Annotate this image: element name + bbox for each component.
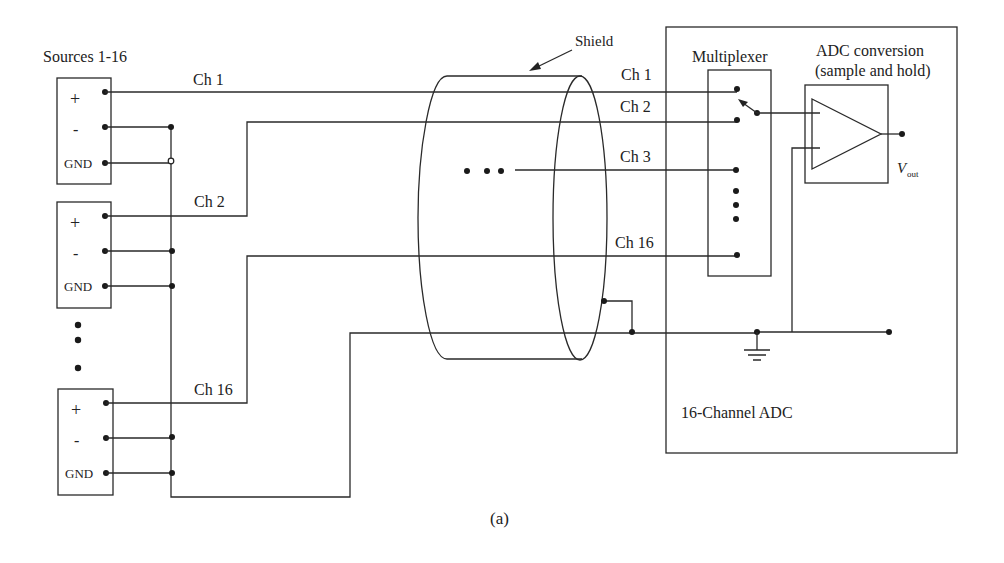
shield-label: Shield (575, 33, 614, 49)
pin-terminals (102, 89, 109, 476)
pin-minus-label: - (73, 245, 78, 262)
multiplexer-box (708, 70, 820, 276)
pin-gnd-label: GND (64, 156, 92, 171)
sample-hold-amplifier (792, 85, 905, 332)
figure-caption: (a) (490, 509, 509, 528)
pin-plus-label: + (70, 89, 80, 109)
sources-title: Sources 1-16 (43, 48, 127, 65)
amplifier-triangle-icon (812, 99, 881, 169)
pin-plus-label: + (70, 213, 80, 233)
circuit-diagram: Sources 1-16 + - GND + - GND + - GND (0, 0, 1004, 563)
pin-gnd-label: GND (65, 466, 93, 481)
ground-symbol-icon (744, 350, 770, 360)
right-label-ch1: Ch 1 (621, 66, 652, 83)
ground-line (754, 329, 892, 350)
left-label-ch2: Ch 2 (194, 193, 225, 210)
left-label-ch16: Ch 16 (194, 381, 233, 398)
right-label-ch3: Ch 3 (620, 148, 651, 165)
right-label-ch16: Ch 16 (615, 234, 654, 251)
pin-minus-label: - (74, 432, 79, 449)
common-return-bus (105, 124, 757, 497)
pin-gnd-label: GND (64, 279, 92, 294)
ellipsis-dots-icon (464, 168, 504, 174)
adc-conversion-label: ADC conversion (816, 42, 924, 59)
shield-arrow-icon (529, 50, 572, 71)
ellipsis-dots-icon (75, 322, 81, 371)
left-label-ch1: Ch 1 (193, 71, 224, 88)
pin-minus-label: - (73, 121, 78, 138)
right-label-ch2: Ch 2 (620, 98, 651, 115)
adc-conversion-sublabel: (sample and hold) (815, 62, 931, 80)
shield-cylinder (418, 76, 635, 360)
pin-plus-label: + (71, 400, 81, 420)
vout-subscript: out (907, 169, 919, 179)
adc-enclosure (666, 27, 957, 453)
multiplexer-label: Multiplexer (692, 48, 768, 66)
adc-title: 16-Channel ADC (681, 404, 793, 421)
